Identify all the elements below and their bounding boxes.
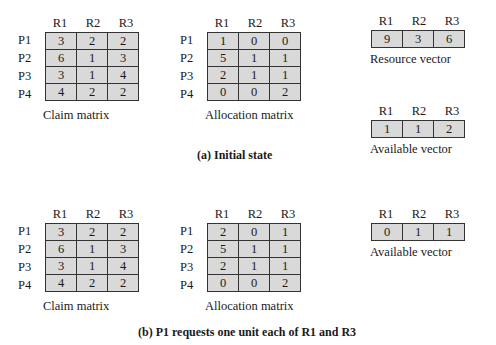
claim-matrix-initial-cell: 4 [46,84,77,101]
claim-matrix-initial-row: 314 [46,67,139,84]
allocation-matrix-initial-col-header: R1 [207,16,237,31]
claim-matrix-initial-cell: 2 [108,84,139,101]
allocation-matrix-after-cell: 1 [239,241,270,258]
claim-matrix-after-col-header: R2 [78,207,108,222]
claim-matrix-initial-row: 422 [46,84,139,101]
allocation-matrix-after-cell: 2 [270,275,301,292]
allocation-matrix-after-cell: 5 [208,241,239,258]
resource-vector-row: 936 [372,31,465,48]
allocation-matrix-after-row-header: P1 [180,224,193,239]
claim-matrix-after-row-header: P2 [18,242,31,257]
allocation-matrix-initial-cell: 0 [208,84,239,101]
resource-vector-cell: 9 [372,31,403,48]
allocation-matrix-initial-cell: 0 [270,33,301,50]
allocation-matrix-after-cell: 0 [239,275,270,292]
claim-matrix-after-row: 422 [46,275,139,292]
allocation-matrix-after-cell: 1 [270,258,301,275]
allocation-matrix-initial-row-header: P1 [180,33,193,48]
claim-matrix-after-cell: 3 [46,258,77,275]
resource-vector-label: Resource vector [370,52,451,67]
claim-matrix-initial-cell: 3 [46,33,77,50]
allocation-matrix-initial-row-header: P4 [180,87,193,102]
resource-vector-col-header: R1 [371,14,401,29]
available-vector-initial: 112 [371,120,465,138]
allocation-matrix-initial-cell: 1 [208,33,239,50]
available-vector-initial-cell: 1 [372,121,403,138]
allocation-matrix-after-col-header: R3 [273,207,303,222]
available-vector-initial-col-header: R1 [371,104,401,119]
claim-matrix-after: 322613314422 [45,223,139,292]
allocation-matrix-after-col-header: R2 [240,207,270,222]
available-vector-initial-col-header: R3 [437,104,467,119]
claim-matrix-after-cell: 6 [46,241,77,258]
available-vector-initial-row: 112 [372,121,465,138]
claim-matrix-initial-cell: 2 [77,84,108,101]
allocation-matrix-after-cell: 0 [239,224,270,241]
allocation-matrix-after-cell: 2 [208,258,239,275]
claim-matrix-after-row-header: P4 [18,278,31,293]
claim-matrix-initial-row: 322 [46,33,139,50]
claim-matrix-initial-row-header: P3 [18,69,31,84]
allocation-matrix-initial-cell: 0 [239,33,270,50]
resource-vector-col-header: R2 [404,14,434,29]
claim-matrix-initial-row-header: P4 [18,87,31,102]
claim-matrix-after-cell: 2 [108,224,139,241]
resource-vector-col-header: R3 [437,14,467,29]
allocation-matrix-after-cell: 1 [270,224,301,241]
allocation-matrix-initial-row: 100 [208,33,301,50]
claim-matrix-after-cell: 3 [108,241,139,258]
claim-matrix-after-cell: 4 [46,275,77,292]
claim-matrix-initial-cell: 1 [77,67,108,84]
caption-initial-state: (a) Initial state [197,148,272,163]
claim-matrix-initial-cell: 1 [77,50,108,67]
claim-matrix-after-cell: 2 [77,275,108,292]
allocation-matrix-initial-row: 002 [208,84,301,101]
allocation-matrix-initial: 100511211002 [207,32,301,101]
allocation-matrix-after-row-header: P3 [180,260,193,275]
claim-matrix-after-row-header: P1 [18,224,31,239]
allocation-matrix-after-col-header: R1 [207,207,237,222]
available-vector-initial-cell: 1 [403,121,434,138]
resource-vector-cell: 6 [434,31,465,48]
allocation-matrix-after-row-header: P2 [180,242,193,257]
allocation-matrix-initial-col-header: R3 [273,16,303,31]
allocation-matrix-after-cell: 2 [208,224,239,241]
allocation-matrix-after-row-header: P4 [180,278,193,293]
allocation-matrix-initial-row: 211 [208,67,301,84]
allocation-matrix-after-row: 201 [208,224,301,241]
available-vector-after-cell: 1 [403,224,434,241]
claim-matrix-initial-cell: 2 [108,33,139,50]
claim-matrix-initial-col-header: R1 [45,16,75,31]
allocation-matrix-initial-row-header: P2 [180,51,193,66]
allocation-matrix-after-row: 511 [208,241,301,258]
available-vector-after-label: Available vector [370,245,452,260]
claim-matrix-initial-row-header: P2 [18,51,31,66]
allocation-matrix-after-row: 002 [208,275,301,292]
available-vector-after-col-header: R2 [404,207,434,222]
allocation-matrix-after-row: 211 [208,258,301,275]
available-vector-after: 011 [371,223,465,241]
available-vector-after-col-header: R3 [437,207,467,222]
claim-matrix-initial-col-header: R2 [78,16,108,31]
allocation-matrix-initial-row: 511 [208,50,301,67]
allocation-matrix-initial-cell: 1 [239,67,270,84]
allocation-matrix-initial-label: Allocation matrix [205,108,294,123]
claim-matrix-after-col-header: R3 [111,207,141,222]
available-vector-initial-col-header: R2 [404,104,434,119]
allocation-matrix-initial-row-header: P3 [180,69,193,84]
claim-matrix-after-row-header: P3 [18,260,31,275]
allocation-matrix-after-cell: 1 [270,241,301,258]
claim-matrix-after-row: 314 [46,258,139,275]
available-vector-after-cell: 1 [434,224,465,241]
claim-matrix-initial-cell: 3 [46,67,77,84]
allocation-matrix-after-label: Allocation matrix [205,299,294,314]
allocation-matrix-initial-cell: 2 [208,67,239,84]
resource-vector: 936 [371,30,465,48]
available-vector-after-cell: 0 [372,224,403,241]
available-vector-initial-label: Available vector [370,142,452,157]
available-vector-after-col-header: R1 [371,207,401,222]
allocation-matrix-initial-cell: 2 [270,84,301,101]
claim-matrix-after-cell: 2 [77,224,108,241]
claim-matrix-initial-row-header: P1 [18,33,31,48]
claim-matrix-after-col-header: R1 [45,207,75,222]
